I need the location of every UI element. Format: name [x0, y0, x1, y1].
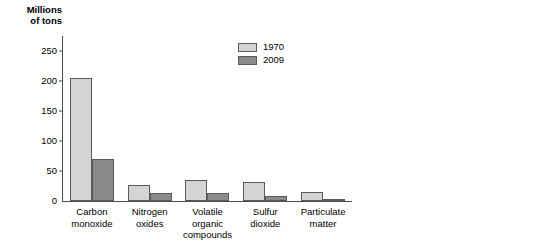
bar-2009	[92, 159, 114, 201]
bar-1970	[301, 192, 323, 201]
plot-area-left: 050100150200250 Carbon monoxideNitrogen …	[62, 36, 352, 202]
legend-left: 19702009	[238, 42, 284, 65]
y-tick-label: 0	[17, 196, 57, 206]
y-tick-label: 200	[17, 76, 57, 86]
bar-group: Particulate matter	[294, 36, 352, 201]
legend-swatch-icon	[238, 56, 257, 65]
y-tick-label: 250	[17, 46, 57, 56]
y-tick-label: 50	[17, 166, 57, 176]
bar-group: Carbon monoxide	[63, 36, 121, 201]
bar-2009	[150, 193, 172, 201]
bar-2009	[207, 193, 229, 201]
y-tick-label: 150	[17, 106, 57, 116]
legend-swatch-icon	[238, 43, 257, 52]
bar-group: Volatile organic compounds	[179, 36, 237, 201]
bar-1970	[70, 78, 92, 201]
y-axis-title-left: Millions of tons	[2, 4, 62, 26]
legend-label: 1970	[263, 42, 284, 52]
legend-item[interactable]: 1970	[238, 42, 284, 52]
bar-1970	[185, 180, 207, 201]
bar-1970	[128, 185, 150, 201]
y-tick-label: 100	[17, 136, 57, 146]
emissions-figure: Millions of tons 050100150200250 Carbon …	[0, 0, 551, 249]
bar-2009	[323, 199, 345, 201]
bar-groups-left: Carbon monoxideNitrogen oxidesVolatile o…	[63, 36, 352, 201]
lead-chart: Thousands of tons 050100150200250 Lead 1…	[372, 0, 551, 249]
legend-label: 2009	[263, 55, 284, 65]
bar-1970	[243, 182, 265, 201]
bar-2009	[265, 196, 287, 201]
legend-item[interactable]: 2009	[238, 55, 284, 65]
bar-group: Nitrogen oxides	[121, 36, 179, 201]
criteria-pollutants-chart: Millions of tons 050100150200250 Carbon …	[0, 0, 372, 249]
category-label: Particulate matter	[286, 206, 360, 229]
